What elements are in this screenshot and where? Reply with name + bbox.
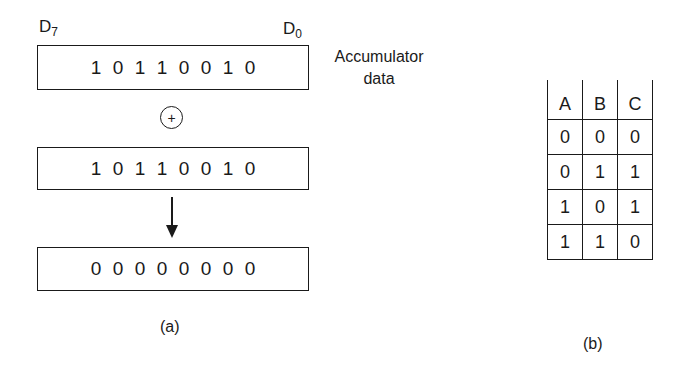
lsb-label: D0: [283, 20, 302, 40]
bit-d2: 0: [200, 258, 213, 280]
bit-d3: 0: [178, 258, 191, 280]
cell-b: 0: [583, 190, 618, 225]
header-b: B: [583, 80, 618, 120]
bit-d1: 0: [222, 258, 235, 280]
header-c: C: [618, 80, 653, 120]
result-register: 0 0 0 0 0 0 0 0: [37, 247, 309, 291]
table-row: 1 0 1: [548, 190, 653, 225]
cell-c: 0: [618, 120, 653, 155]
caption-b: (b): [583, 335, 603, 353]
accumulator-bits: 1 0 1 1 0 0 1 0: [90, 57, 257, 79]
xor-operator-icon: +: [160, 106, 183, 129]
cell-c: 1: [618, 190, 653, 225]
cell-a: 1: [548, 190, 583, 225]
bit-d4: 0: [156, 258, 169, 280]
bit-d0: 0: [244, 57, 257, 79]
bit-d6: 0: [112, 158, 125, 180]
cell-a: 1: [548, 225, 583, 260]
bit-d2: 0: [200, 57, 213, 79]
operand-bits: 1 0 1 1 0 0 1 0: [90, 158, 257, 180]
cell-c: 0: [618, 225, 653, 260]
header-a: A: [548, 80, 583, 120]
down-arrow-head: [166, 225, 178, 238]
truth-table-header: A B C: [548, 80, 653, 120]
bit-d7: 1: [90, 158, 103, 180]
cell-a: 0: [548, 155, 583, 190]
cell-c: 1: [618, 155, 653, 190]
bit-d5: 1: [134, 57, 147, 79]
msb-label: D7: [39, 18, 58, 38]
accumulator-data-label: Accumulator data: [318, 46, 440, 90]
bit-d3: 0: [178, 57, 191, 79]
result-bits: 0 0 0 0 0 0 0 0: [90, 258, 257, 280]
bit-d3: 0: [178, 158, 191, 180]
bit-d7: 1: [90, 57, 103, 79]
cell-a: 0: [548, 120, 583, 155]
operator-symbol: +: [167, 111, 175, 125]
bit-d1: 1: [222, 158, 235, 180]
bit-d6: 0: [112, 57, 125, 79]
bit-d0: 0: [244, 158, 257, 180]
accumulator-register: 1 0 1 1 0 0 1 0: [37, 45, 309, 90]
table-row: 0 0 0: [548, 120, 653, 155]
cell-b: 1: [583, 225, 618, 260]
truth-table: A B C 0 0 0 0 1 1 1 0 1 1 1 0: [547, 80, 653, 260]
cell-b: 1: [583, 155, 618, 190]
bit-d5: 1: [134, 158, 147, 180]
down-arrow-icon: [171, 197, 173, 227]
cell-b: 0: [583, 120, 618, 155]
caption-a: (a): [160, 318, 180, 336]
bit-d1: 1: [222, 57, 235, 79]
msb-subscript: 7: [51, 25, 58, 39]
table-row: 1 1 0: [548, 225, 653, 260]
bit-d2: 0: [200, 158, 213, 180]
msb-letter: D: [39, 17, 51, 36]
bit-d7: 0: [90, 258, 103, 280]
table-row: 0 1 1: [548, 155, 653, 190]
side-label-line2: data: [318, 68, 440, 90]
lsb-letter: D: [283, 19, 295, 38]
bit-d4: 1: [156, 57, 169, 79]
operand-register: 1 0 1 1 0 0 1 0: [37, 147, 309, 190]
side-label-line1: Accumulator: [318, 46, 440, 68]
lsb-subscript: 0: [295, 27, 302, 41]
bit-d5: 0: [134, 258, 147, 280]
bit-d4: 1: [156, 158, 169, 180]
bit-d6: 0: [112, 258, 125, 280]
bit-d0: 0: [244, 258, 257, 280]
